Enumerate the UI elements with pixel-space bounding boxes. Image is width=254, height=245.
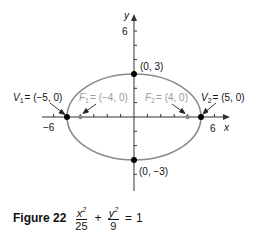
top-point-dot (131, 71, 137, 77)
x-axis-arrow-icon (223, 114, 230, 120)
vertex-v2-dot (198, 114, 204, 120)
denominator-9: 9 (109, 220, 117, 232)
bottom-point-dot (131, 157, 137, 163)
focus-f2-dot (185, 115, 189, 119)
v2-label: V2= (5, 0) (201, 92, 245, 104)
x-tick-label-neg6: −6 (43, 122, 55, 133)
x-axis-label: x (223, 122, 230, 133)
ellipse-graph: y 6 −6 6 x (0, 3) (0, −3) V1= (−5, 0) F1… (0, 0, 254, 200)
figure-label: Figure 22 (13, 211, 66, 225)
v1-label: V1= (−5, 0) (13, 92, 62, 104)
fraction-x: x2 25 (74, 204, 88, 232)
plus-sign: + (95, 211, 102, 225)
y-tick-label-6: 6 (122, 26, 128, 37)
f2-label: F2= (4, 0) (145, 92, 188, 104)
rhs-value: 1 (136, 211, 143, 225)
focus-f1-dot (78, 115, 82, 119)
exponent: 2 (82, 206, 86, 213)
f1-label: F1= (−4, 0) (79, 92, 128, 104)
denominator-25: 25 (74, 220, 88, 232)
figure-caption: Figure 22 x2 25 + y2 9 = 1 (13, 204, 147, 232)
bottom-point-label: (0, −3) (139, 166, 168, 177)
exponent: 2 (114, 206, 118, 213)
y-axis-arrow-icon (131, 14, 137, 21)
equals-sign: = (125, 211, 132, 225)
x-tick-label-6: 6 (210, 123, 216, 134)
top-point-label: (0, 3) (140, 61, 163, 72)
fraction-y: y2 9 (108, 204, 119, 232)
y-axis-label: y (123, 10, 130, 21)
